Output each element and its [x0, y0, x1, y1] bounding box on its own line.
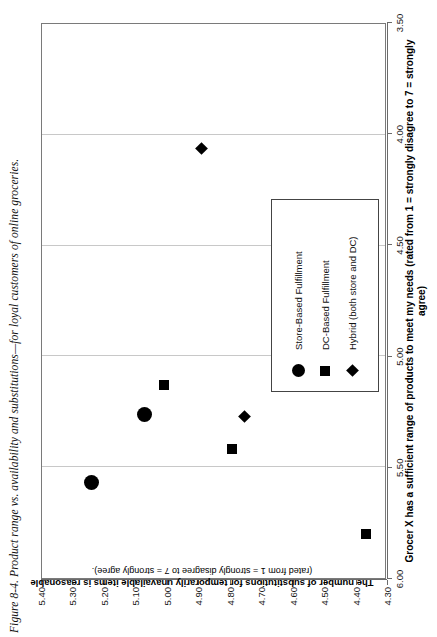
- y-axis-title-sub: (rated from 1 = strongly disagree to 7 =…: [0, 565, 412, 577]
- x-axis-line: 3.504.004.505.005.506.00: [387, 23, 388, 579]
- y-axis-title-main: The number of substitutions for temporar…: [0, 577, 412, 589]
- data-point-square: [159, 380, 169, 390]
- axis-tick-label: 4.30: [382, 587, 393, 606]
- axis-tick: [387, 22, 392, 23]
- axis-tick-label: 4.60: [287, 587, 298, 606]
- square-marker-icon: [320, 361, 330, 381]
- legend-label: Hybrid (both store and DC): [347, 236, 358, 350]
- legend-label: DC-Based Fulfillment: [320, 260, 331, 350]
- legend-item-hybrid: Hybrid (both store and DC): [342, 210, 362, 381]
- x-axis-title: Grocer X has a sufficient range of produ…: [404, 23, 428, 579]
- data-point-diamond: [238, 410, 251, 423]
- y-axis-title: The number of substitutions for temporar…: [0, 565, 412, 589]
- data-point-circle: [84, 475, 99, 490]
- axis-tick-label: 5.00: [161, 587, 172, 606]
- circle-marker-icon: [292, 361, 305, 381]
- axis-tick: [387, 244, 392, 245]
- axis-tick-label: 5.40: [36, 587, 47, 606]
- axis-tick: [387, 356, 392, 357]
- figure-caption: Figure 8-4. Product range vs. availabili…: [8, 73, 20, 633]
- data-point-square: [361, 529, 371, 539]
- axis-tick-label: 5.20: [98, 587, 109, 606]
- data-point-circle: [137, 407, 152, 422]
- legend-item-store-based: Store-Based Fulfillment: [288, 210, 308, 381]
- axis-tick-label: 4.70: [256, 587, 267, 606]
- figure-rotated-container: Figure 8-4. Product range vs. availabili…: [0, 0, 437, 637]
- x-axis-title-cont: agree): [416, 23, 428, 579]
- x-axis-title-main: Grocer X has a sufficient range of produ…: [404, 23, 416, 579]
- gridline: [42, 466, 385, 467]
- axis-tick-label: 5.10: [130, 587, 141, 606]
- data-point-diamond: [195, 142, 208, 155]
- axis-tick-label: 4.40: [350, 587, 361, 606]
- legend-item-dc-based: DC-Based Fulfillment: [315, 210, 335, 381]
- axis-tick-label: 4.50: [319, 587, 330, 606]
- axis-tick: [387, 133, 392, 134]
- axis-tick: [387, 467, 392, 468]
- diamond-marker-icon: [348, 361, 357, 381]
- chart-legend: Store-Based Fulfillment DC-Based Fulfill…: [271, 199, 379, 392]
- scatter-plot-area: Store-Based Fulfillment DC-Based Fulfill…: [41, 23, 386, 579]
- legend-label: Store-Based Fulfillment: [293, 251, 304, 350]
- axis-tick-label: 4.90: [193, 587, 204, 606]
- axis-tick-label: 5.30: [67, 587, 78, 606]
- gridline: [42, 134, 385, 135]
- data-point-square: [227, 444, 237, 454]
- axis-tick-label: 4.80: [224, 587, 235, 606]
